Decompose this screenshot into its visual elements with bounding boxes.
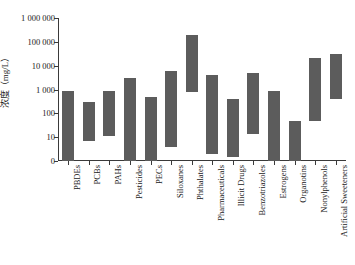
bar	[309, 58, 321, 120]
bar	[145, 97, 157, 161]
chart-container: 浓度（mg/L） 1 000 000100 00010 0001 0001001…	[0, 0, 355, 265]
x-axis-tick-label: Siloxanes	[175, 165, 185, 198]
bar	[227, 99, 239, 157]
plot-area	[58, 18, 346, 161]
x-axis-tick-label: Pesticides	[134, 165, 144, 199]
bar	[247, 73, 259, 134]
x-axis-tick-labels: PBDEsPCBsPAHsPesticidesPECsSiloxanesPhth…	[58, 161, 346, 265]
x-axis-tick-label: PAHs	[113, 165, 123, 185]
x-axis-tick-label: Phthalates	[195, 165, 205, 200]
y-axis-tick-label: 1 000 000	[21, 13, 55, 23]
y-axis-tick	[54, 113, 58, 114]
x-axis-tick-label: PECs	[154, 165, 164, 184]
y-axis-line	[58, 18, 59, 161]
x-axis-tick-label: Illicit Drugs	[236, 165, 246, 206]
y-axis-tick	[54, 137, 58, 138]
x-axis-tick-label: Benzotriazoles	[257, 165, 267, 216]
y-axis-tick	[54, 42, 58, 43]
bar	[206, 75, 218, 154]
x-axis-tick-label: Artificial Sweeteners	[339, 165, 349, 237]
y-axis-tick-label: 100 000	[27, 37, 55, 47]
y-axis-tick-label: 1 000	[36, 85, 55, 95]
bar	[330, 54, 342, 99]
bar	[268, 91, 280, 161]
bar	[289, 121, 301, 161]
x-axis-tick-label: Organotins	[298, 165, 308, 203]
y-axis-tick	[54, 90, 58, 91]
x-axis-tick-label: Nonylphenols	[319, 165, 329, 213]
y-axis-tick	[54, 66, 58, 67]
x-axis-tick-label: Estrogens	[278, 165, 288, 199]
x-axis-tick-label: PBDEs	[72, 165, 82, 190]
bar	[165, 71, 177, 147]
y-axis-tick-labels: 1 000 000100 00010 0001 000100100	[0, 0, 55, 265]
bar	[124, 78, 136, 161]
bar	[103, 91, 115, 137]
y-axis-tick-label: 10 000	[32, 61, 55, 71]
x-axis-tick-label: PCBs	[92, 165, 102, 184]
bar	[186, 35, 198, 92]
bar	[83, 102, 95, 141]
y-axis-tick	[54, 18, 58, 19]
bar	[62, 91, 74, 161]
x-axis-tick-label: Pharmaceuticals	[216, 165, 226, 221]
